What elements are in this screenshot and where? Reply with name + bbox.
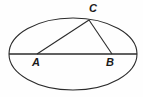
vertex-label-c: C	[89, 3, 97, 14]
vertex-label-a: A	[32, 57, 40, 68]
segment-AC	[37, 20, 89, 54]
vertex-label-b: B	[106, 57, 114, 68]
geometry-figure: C A B	[0, 0, 143, 97]
segment-BC	[89, 20, 112, 54]
geometry-canvas	[0, 0, 143, 97]
